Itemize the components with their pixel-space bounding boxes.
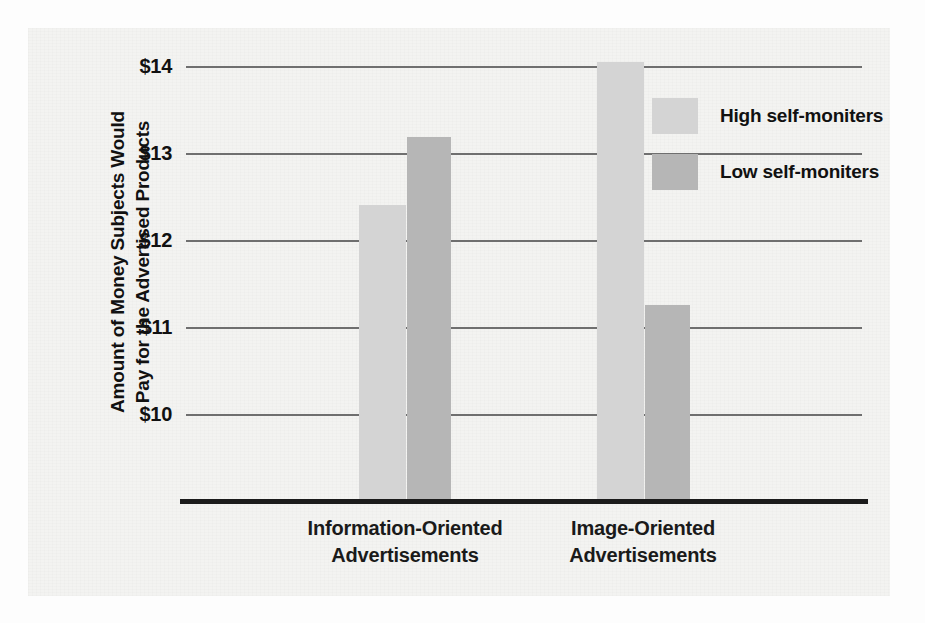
y-tick-label-10: $10 (140, 403, 172, 426)
bar-information-low (407, 137, 451, 499)
bar-image-high (597, 62, 644, 499)
gridline-11: $11 (186, 327, 862, 329)
legend-label-high: High self-moniters (720, 105, 883, 127)
bar-image-low (645, 305, 690, 499)
gridline-12: $12 (186, 240, 862, 242)
gridline-10: $10 (186, 414, 862, 416)
y-tick-label-13: $13 (140, 142, 172, 165)
x-label-line-2: Advertisements (300, 542, 510, 569)
y-tick-label-14: $14 (140, 55, 172, 78)
gridline-14: $14 (186, 66, 862, 68)
y-tick-label-12: $12 (140, 229, 172, 252)
legend-swatch-low (652, 154, 698, 190)
x-axis-line (180, 499, 868, 504)
legend-swatch-high (652, 98, 698, 134)
x-label-line-2: Advertisements (538, 542, 748, 569)
y-axis-title-line-1: Amount of Money Subjects Would (105, 111, 130, 413)
legend-item-high-self-moniters: High self-moniters (652, 88, 882, 144)
chart-figure: Amount of Money Subjects Would Pay for t… (0, 0, 925, 623)
legend-item-low-self-moniters: Low self-moniters (652, 144, 882, 200)
chart-legend: High self-moniters Low self-moniters (652, 88, 882, 200)
bar-information-high (359, 205, 406, 499)
x-label-line-1: Image-Oriented (571, 517, 715, 539)
legend-label-low: Low self-moniters (720, 161, 879, 183)
x-tick-label-image-oriented: Image-Oriented Advertisements (538, 515, 748, 569)
x-label-line-1: Information-Oriented (308, 517, 503, 539)
y-tick-label-11: $11 (141, 316, 172, 339)
x-tick-label-information-oriented: Information-Oriented Advertisements (300, 515, 510, 569)
